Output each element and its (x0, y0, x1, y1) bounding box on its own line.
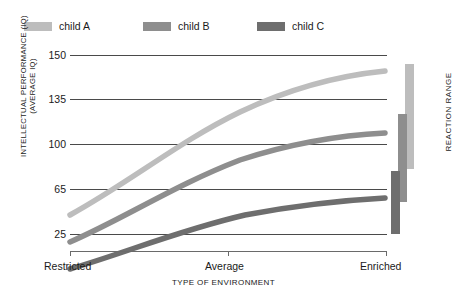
reaction-range-title: REACTION RANGE (442, 62, 456, 162)
y-tick-65: 65 (40, 184, 66, 195)
y-tick-135: 135 (40, 94, 66, 105)
y-tick-150: 150 (40, 50, 66, 61)
legend-swatch-child-c (257, 22, 285, 31)
curve-layer (70, 55, 387, 243)
x-tick-label-restricted: Restricted (44, 260, 91, 272)
legend-swatch-child-b (143, 22, 171, 31)
curve-child-a (70, 71, 385, 215)
legend-label-child-a: child A (59, 20, 90, 32)
y-tick-100: 100 (40, 139, 66, 150)
x-tickmark-average (228, 251, 229, 256)
y-tick-25: 25 (40, 229, 66, 240)
chart-legend: child A child B child C (0, 18, 447, 34)
x-tickmark-enriched (386, 251, 387, 256)
curve-child-c (70, 198, 385, 269)
y-axis-title: INTELLECTUAL PERFORMANCE (IQ) (AVERAGE I… (20, 0, 36, 176)
y-axis-ticks: 150 135 100 65 25 (36, 55, 66, 243)
reaction-range-bar-child-c (391, 171, 400, 234)
x-axis-title: TYPE OF ENVIRONMENT (0, 278, 447, 287)
x-tickmark-restricted (70, 251, 71, 256)
legend-label-child-c: child C (292, 20, 324, 32)
legend-label-child-b: child B (178, 20, 210, 32)
legend-item-child-c[interactable]: child C (257, 18, 324, 34)
y-axis-title-line1: INTELLECTUAL PERFORMANCE (IQ) (19, 15, 29, 157)
legend-item-child-b[interactable]: child B (143, 18, 210, 34)
x-tick-label-enriched: Enriched (360, 260, 401, 272)
plot-area (70, 55, 387, 243)
x-tick-label-average: Average (205, 260, 244, 272)
